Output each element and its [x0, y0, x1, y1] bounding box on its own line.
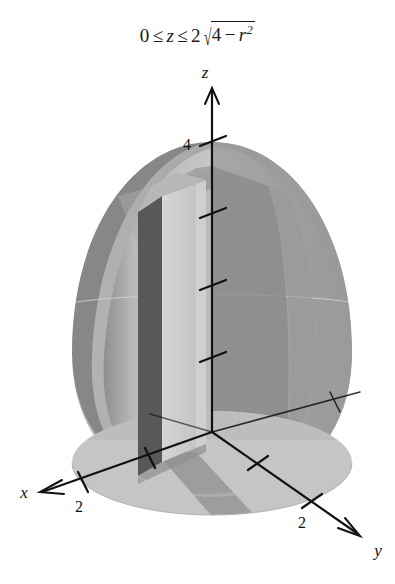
figure-container: 0≤z≤2√4−r2	[0, 0, 395, 584]
x-axis-label: x	[19, 483, 28, 502]
slab-right-face	[196, 180, 206, 448]
x-axis-arrowhead	[40, 480, 64, 494]
x-tick-label-2: 2	[75, 498, 83, 515]
z-tick-label-4: 4	[183, 136, 191, 153]
solid-of-revolution-diagram: z x y 4 2 2	[0, 0, 395, 584]
z-axis-label: z	[201, 63, 209, 82]
slab-front-face	[162, 184, 196, 462]
y-axis-label: y	[372, 541, 382, 560]
y-tick-label-2: 2	[298, 514, 306, 531]
slab-side-face	[138, 196, 162, 476]
